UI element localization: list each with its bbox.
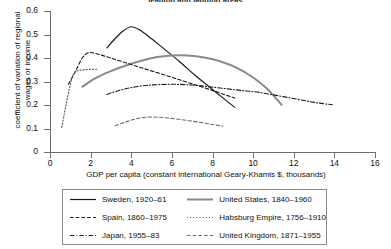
y-tick-label: 0.6 [8, 5, 38, 15]
y-tick-mark [44, 35, 50, 36]
x-tick-label: 8 [201, 158, 225, 168]
series-line-2 [68, 52, 235, 98]
legend-label: United Kingdom, 1871–1955 [219, 231, 320, 240]
legend-label: Sweden, 1920–61 [102, 195, 167, 204]
x-tick-label: 2 [79, 158, 103, 168]
legend-item[interactable]: Sweden, 1920–61 [63, 190, 180, 208]
y-tick-mark [44, 82, 50, 83]
legend-swatch-icon [69, 213, 97, 222]
series-line-5 [115, 117, 223, 126]
y-tick-label: 0.1 [8, 123, 38, 133]
legend-item[interactable]: United Kingdom, 1871–1955 [180, 226, 326, 244]
chart-figure: leading and lagging areas coefficient of… [0, 0, 391, 249]
legend-label: Habsburg Empire, 1756–1910 [219, 213, 326, 222]
x-tick-label: 14 [322, 158, 346, 168]
legend-swatch-icon [69, 231, 97, 240]
legend-swatch-icon [186, 195, 214, 204]
y-tick-label: 0 [8, 146, 38, 156]
legend-item[interactable]: Spain, 1860–1975 [63, 208, 180, 226]
series-line-4 [107, 84, 332, 104]
legend-item[interactable]: Japan, 1955–83 [63, 226, 180, 244]
y-tick-mark [44, 58, 50, 59]
x-tick-label: 4 [119, 158, 143, 168]
series-line-3 [62, 69, 98, 127]
x-tick-label: 0 [38, 158, 62, 168]
series-line-0 [107, 27, 235, 108]
legend-swatch-icon [186, 231, 214, 240]
legend-item[interactable]: Habsburg Empire, 1756–1910 [180, 208, 326, 226]
y-axis-label: coefficient of variation of regional wag… [13, 0, 33, 140]
x-axis-label: GDP per capita (constant international G… [36, 170, 376, 179]
y-tick-mark [44, 105, 50, 106]
legend-label: Japan, 1955–83 [102, 231, 159, 240]
x-tick-label: 6 [160, 158, 184, 168]
legend-swatch-icon [69, 195, 97, 204]
legend-label: Spain, 1860–1975 [102, 213, 167, 222]
y-tick-mark [44, 11, 50, 12]
legend-label: United States, 1840–1960 [219, 195, 312, 204]
legend-item[interactable]: United States, 1840–1960 [180, 190, 326, 208]
x-tick-label: 16 [363, 158, 387, 168]
y-tick-label: 0.4 [8, 52, 38, 62]
legend-swatch-icon [186, 213, 214, 222]
y-tick-mark [44, 129, 50, 130]
x-tick-label: 10 [241, 158, 265, 168]
y-tick-label: 0.2 [8, 99, 38, 109]
y-tick-label: 0.3 [8, 76, 38, 86]
y-axis-line [50, 11, 51, 153]
series-line-1 [83, 55, 282, 105]
y-tick-label: 0.5 [8, 29, 38, 39]
chart-title: leading and lagging areas [0, 0, 391, 2]
chart-legend: Sweden, 1920–61United States, 1840–1960S… [62, 189, 327, 245]
x-tick-label: 12 [282, 158, 306, 168]
